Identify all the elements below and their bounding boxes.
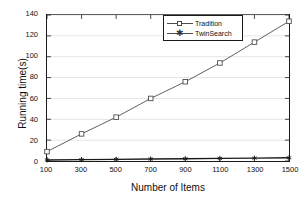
x-tick-label: 1100 (212, 166, 228, 174)
legend: Tradition ✱ TwinSearch (163, 15, 243, 41)
legend-marker-asterisk-icon: ✱ (167, 28, 193, 38)
figure: 020406080100120140 Running time(s) 10030… (0, 0, 307, 203)
legend-marker-square-icon (167, 18, 193, 28)
x-tick-label: 1300 (247, 166, 264, 174)
series-twinsearch (45, 155, 291, 162)
legend-label-tradition: Tradition (195, 20, 222, 27)
legend-item-twinsearch: ✱ TwinSearch (167, 28, 239, 38)
x-tick-label: 900 (179, 166, 192, 174)
y-axis-title: Running time(s) (17, 24, 28, 164)
x-tick-label: 500 (109, 166, 122, 174)
x-tick-label: 300 (75, 166, 88, 174)
legend-item-tradition: Tradition (167, 18, 239, 28)
x-tick-label: 1500 (282, 166, 299, 174)
y-tick-label: 140 (2, 10, 38, 18)
x-tick-label: 100 (40, 166, 53, 174)
x-axis-title: Number of Items (46, 182, 290, 193)
x-tick-label: 700 (144, 166, 157, 174)
legend-label-twinsearch: TwinSearch (195, 30, 232, 37)
